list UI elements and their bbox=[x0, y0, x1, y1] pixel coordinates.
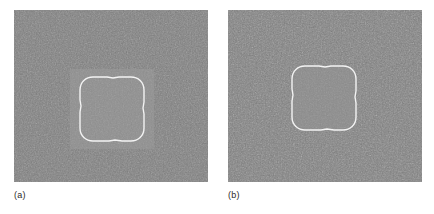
panel-a-image bbox=[14, 10, 208, 182]
panel-b-object-region bbox=[288, 62, 364, 136]
caption-a: (a) bbox=[14, 190, 26, 201]
caption-b: (b) bbox=[228, 190, 240, 201]
panel-b-image bbox=[228, 10, 422, 182]
panel-b-svg bbox=[228, 10, 422, 182]
panel-a-svg bbox=[14, 10, 208, 182]
figure-container: (a) (b) bbox=[0, 0, 434, 214]
